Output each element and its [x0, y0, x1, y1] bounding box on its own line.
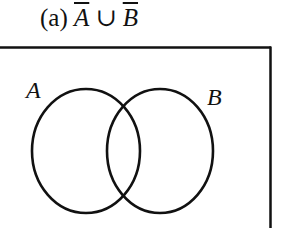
set-b-circle: [107, 89, 213, 213]
venn-diagram: A B: [0, 0, 292, 228]
set-a-label: A: [24, 77, 41, 103]
set-b-label: B: [207, 84, 222, 110]
